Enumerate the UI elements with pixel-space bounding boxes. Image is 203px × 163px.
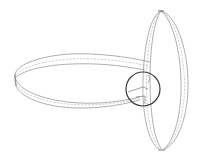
interlocking-rings-drawing <box>0 0 203 163</box>
vertical-ring <box>143 11 188 150</box>
figure-canvas <box>0 0 203 163</box>
